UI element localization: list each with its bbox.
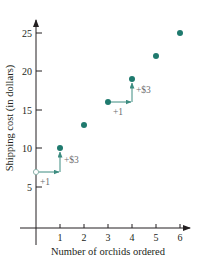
scatter-chart: 1 2 3 4 5 6 5 10 15 20 25 Number of orch… [0,0,204,263]
y-tick-label: 10 [22,143,32,154]
y-tick-label: 25 [22,28,32,39]
run-label: +1 [113,107,123,117]
slope-annotation-1: +1 +$3 [38,152,79,187]
data-point [105,99,111,105]
x-axis-title: Number of orchids ordered [51,246,166,257]
data-point [57,145,63,151]
x-ticks: 1 2 3 4 5 6 [58,224,183,243]
run-label: +1 [40,177,50,187]
x-tick-label: 1 [58,232,63,243]
x-tick-label: 6 [178,232,183,243]
x-tick-label: 2 [82,232,87,243]
data-point [129,76,135,82]
x-tick-label: 5 [154,232,159,243]
data-point [177,30,183,36]
x-tick-label: 3 [106,232,111,243]
slope-annotation-2: +1 +$3 [110,83,151,117]
y-tick-label: 5 [27,182,32,193]
axes [20,20,190,245]
x-tick-label: 4 [130,232,135,243]
data-points [57,30,183,151]
data-point [81,122,87,128]
y-tick-label: 15 [22,105,32,116]
intercept-open-point [33,169,38,174]
rise-label: +$3 [64,155,79,165]
data-point [153,53,159,59]
rise-label: +$3 [136,85,151,95]
y-tick-label: 20 [22,66,32,77]
y-ticks: 5 10 15 20 25 [22,28,42,193]
y-axis-title: Shipping cost (in dollars) [4,64,16,171]
